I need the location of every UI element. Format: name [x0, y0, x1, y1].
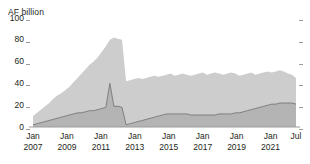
x-tick-month: Jan — [88, 131, 114, 142]
right-axis-tick-mark — [299, 85, 303, 86]
x-tick-month: Jan — [224, 131, 250, 142]
x-tick-year: 2017 — [190, 142, 216, 153]
x-tick-year: 2013 — [122, 142, 148, 153]
x-tick-year: 2019 — [224, 142, 250, 153]
x-axis-tick-label: Jan2007 — [20, 131, 46, 152]
x-axis-tick-label: Jan2017 — [190, 131, 216, 152]
x-tick-month: Jan — [54, 131, 80, 142]
y-axis-tick-label: 0 — [2, 122, 24, 132]
y-axis-tick-mark — [26, 20, 30, 21]
y-axis-tick-mark — [26, 42, 30, 43]
x-tick-month: Jul — [283, 131, 309, 142]
x-tick-month: Jan — [122, 131, 148, 142]
y-axis-tick-label: 40 — [2, 78, 24, 88]
right-axis-tick-mark — [299, 129, 303, 130]
x-tick-year: 2011 — [88, 142, 114, 153]
x-axis-tick-label: Jan2021 — [258, 131, 284, 152]
x-tick-month: Jan — [190, 131, 216, 142]
x-axis-tick-label: Jan2011 — [88, 131, 114, 152]
x-axis-tick-label: Jan2009 — [54, 131, 80, 152]
chart-container: AF billion 100806040200 Jan2007Jan2009Ja… — [0, 0, 310, 164]
y-axis-tick-mark — [26, 107, 30, 108]
x-axis-tick-label: Jan2019 — [224, 131, 250, 152]
y-axis-tick-label: 100 — [2, 13, 24, 23]
x-tick-year: 2021 — [258, 142, 284, 153]
x-tick-month: Jan — [156, 131, 182, 142]
right-axis-tick-mark — [299, 20, 303, 21]
x-axis-tick-label: Jan2015 — [156, 131, 182, 152]
x-tick-year: 2015 — [156, 142, 182, 153]
right-axis-tick-mark — [299, 107, 303, 108]
y-axis-tick-mark — [26, 129, 30, 130]
y-axis-tick-label: 60 — [2, 56, 24, 66]
x-axis-tick-label: Jul — [283, 131, 309, 142]
x-axis-tick-label: Jan2013 — [122, 131, 148, 152]
right-axis-tick-mark — [299, 42, 303, 43]
right-axis-tick-mark — [299, 64, 303, 65]
y-axis-tick-mark — [26, 85, 30, 86]
x-tick-year: 2009 — [54, 142, 80, 153]
x-tick-month: Jan — [258, 131, 284, 142]
y-axis-tick-mark — [26, 64, 30, 65]
x-tick-year: 2007 — [20, 142, 46, 153]
x-tick-month: Jan — [20, 131, 46, 142]
y-axis-tick-label: 80 — [2, 34, 24, 44]
y-axis-tick-label: 20 — [2, 100, 24, 110]
